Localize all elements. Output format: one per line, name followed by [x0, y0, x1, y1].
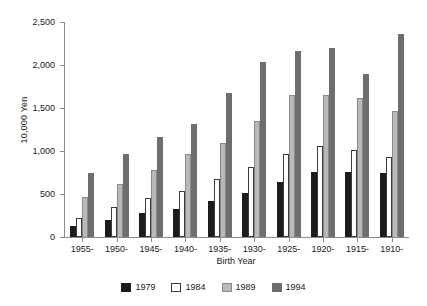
bar-group: 1915-: [340, 22, 374, 237]
bar-1994-1940-: [191, 124, 197, 237]
bar-group: 1920-: [306, 22, 340, 237]
x-axis-tick-label: 1910-: [380, 244, 403, 254]
bar-chart: 10,000 Yen 05001,0001,5002,0002,500 1955…: [0, 0, 427, 306]
bar-1994-1945-: [157, 137, 163, 237]
bar-1994-1930-: [260, 62, 266, 237]
bar-1994-1920-: [329, 48, 335, 237]
plot-area: 05001,0001,5002,0002,500 1955-1950-1945-…: [64, 22, 409, 238]
y-axis-tick: 0: [60, 237, 65, 238]
legend-swatch-1994: [272, 283, 282, 292]
y-axis-tick-label: 1,000: [32, 146, 55, 156]
x-axis-tick: [392, 237, 393, 242]
x-axis-tick-label: 1925-: [277, 244, 300, 254]
bar-group: 1910-: [375, 22, 409, 237]
bar-group: 1955-: [65, 22, 99, 237]
bar-group: 1930-: [237, 22, 271, 237]
x-axis-tick-label: 1940-: [174, 244, 197, 254]
x-axis-tick: [254, 237, 255, 242]
y-axis-tick-label: 2,000: [32, 60, 55, 70]
y-axis-title-label: 10,000 Yen: [19, 96, 29, 143]
bar-group: 1950-: [99, 22, 133, 237]
x-axis-tick-label: 1930-: [243, 244, 266, 254]
y-axis-tick-label: 500: [40, 189, 55, 199]
x-axis-tick: [117, 237, 118, 242]
x-axis-tick: [82, 237, 83, 242]
x-axis-tick: [357, 237, 358, 242]
y-axis-tick-label: 2,500: [32, 17, 55, 27]
bar-1994-1910-: [398, 34, 404, 237]
legend-label-1979: 1979: [135, 282, 155, 292]
legend-label-1984: 1984: [185, 282, 205, 292]
x-axis-tick: [151, 237, 152, 242]
bar-group: 1935-: [203, 22, 237, 237]
x-axis-tick: [220, 237, 221, 242]
bar-1994-1950-: [123, 154, 129, 237]
x-axis-tick: [185, 237, 186, 242]
legend-swatch-1979: [121, 283, 131, 292]
bar-group: 1945-: [134, 22, 168, 237]
legend-swatch-1989: [222, 283, 232, 292]
x-axis-title: Birth Year: [64, 256, 408, 266]
bar-group: 1925-: [271, 22, 305, 237]
legend-item-1984[interactable]: 1984: [171, 282, 205, 292]
bar-1994-1955-: [88, 173, 94, 238]
y-axis-tick-label: 0: [50, 232, 55, 242]
x-axis-tick-label: 1935-: [208, 244, 231, 254]
bar-group: 1940-: [168, 22, 202, 237]
bar-1994-1935-: [226, 93, 232, 237]
legend-label-1994: 1994: [286, 282, 306, 292]
x-axis-tick-label: 1945-: [140, 244, 163, 254]
legend-item-1989[interactable]: 1989: [222, 282, 256, 292]
x-axis-tick-label: 1955-: [71, 244, 94, 254]
legend-label-1989: 1989: [236, 282, 256, 292]
bars-layer: 1955-1950-1945-1940-1935-1930-1925-1920-…: [65, 22, 409, 237]
x-axis-tick: [289, 237, 290, 242]
bar-1994-1925-: [295, 51, 301, 237]
y-axis-tick-label: 1,500: [32, 103, 55, 113]
x-axis-tick-label: 1920-: [312, 244, 335, 254]
legend-item-1994[interactable]: 1994: [272, 282, 306, 292]
x-axis-tick-label: 1915-: [346, 244, 369, 254]
legend-item-1979[interactable]: 1979: [121, 282, 155, 292]
bar-1994-1915-: [363, 74, 369, 237]
x-axis-tick: [323, 237, 324, 242]
chart-legend: 1979198419891994: [0, 282, 427, 292]
y-axis-title: 10,000 Yen: [14, 0, 34, 240]
legend-swatch-1984: [171, 283, 181, 292]
x-axis-tick-label: 1950-: [105, 244, 128, 254]
